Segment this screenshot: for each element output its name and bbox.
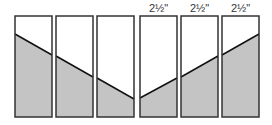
- shaded-region: [140, 78, 177, 117]
- strips-diagram: [0, 0, 272, 125]
- shaded-region: [181, 56, 218, 117]
- shaded-region: [222, 34, 259, 117]
- dimension-label: 2½": [181, 2, 218, 14]
- dimension-label: 2½": [140, 2, 177, 14]
- strip-1: [15, 16, 52, 117]
- shaded-region: [15, 34, 52, 117]
- strip-3: [97, 16, 134, 117]
- strip-2: [56, 16, 93, 117]
- strip-6: [222, 16, 259, 117]
- strip-4: [140, 16, 177, 117]
- shaded-region: [56, 56, 93, 117]
- strip-5: [181, 16, 218, 117]
- shaded-region: [97, 78, 134, 117]
- dimension-label: 2½": [222, 2, 259, 14]
